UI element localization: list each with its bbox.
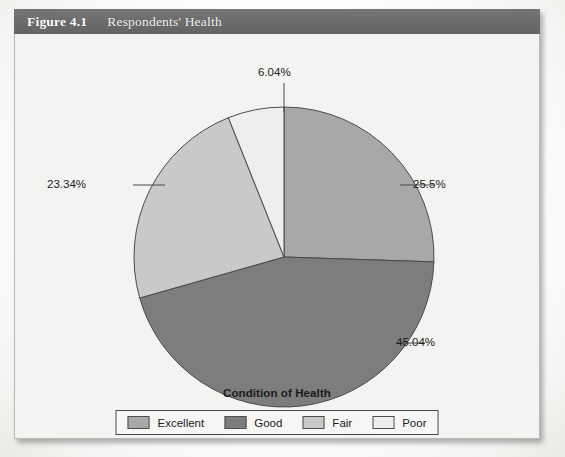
pie-label-good: 45.04% (396, 336, 435, 348)
pie-label-excellent: 25.5% (413, 178, 446, 190)
legend-label-fair: Fair (332, 417, 352, 429)
legend-swatch-excellent (128, 416, 150, 429)
figure-caption: Respondents' Health (107, 14, 222, 30)
figure-number: Figure 4.1 (27, 14, 87, 30)
pie-label-poor: 6.04% (258, 66, 291, 78)
legend-item-poor[interactable]: Poor (372, 416, 426, 429)
figure-header: Figure 4.1 Respondents' Health (14, 9, 540, 34)
pie-label-fair: 23.34% (47, 178, 86, 190)
legend-label-poor: Poor (402, 417, 426, 429)
pie-chart: 6.04% 25.5% 45.04% 23.34% (15, 34, 539, 438)
legend-item-excellent[interactable]: Excellent (128, 416, 205, 429)
pie-chart-svg (15, 34, 539, 438)
figure-body: 6.04% 25.5% 45.04% 23.34% Condition of H… (14, 34, 540, 439)
legend-swatch-good (224, 416, 246, 429)
chart-axis-title: Condition of Health (15, 387, 539, 399)
legend-label-excellent: Excellent (158, 417, 205, 429)
figure-container: Figure 4.1 Respondents' Health 6.04% 25.… (14, 9, 540, 439)
legend-item-fair[interactable]: Fair (302, 416, 352, 429)
chart-legend: ExcellentGoodFairPoor (116, 410, 439, 435)
legend-swatch-fair (302, 416, 324, 429)
pie-slice-excellent[interactable] (284, 107, 434, 262)
legend-label-good: Good (254, 417, 282, 429)
legend-swatch-poor (372, 416, 394, 429)
pie-slices (134, 107, 434, 407)
legend-item-good[interactable]: Good (224, 416, 282, 429)
